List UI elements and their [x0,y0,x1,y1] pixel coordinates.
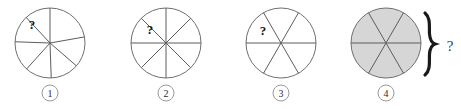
circle-number-label-4: 4 [378,85,394,101]
circle-diagram-4 [351,8,421,78]
label-text-2: 2 [164,88,169,99]
circle-diagram-2: ? [131,8,201,78]
question-mark-2: ? [147,22,154,37]
circle-number-label-2: 2 [158,85,174,101]
circle-number-label-1: 1 [42,85,58,101]
brace-group: ? [425,13,454,75]
question-mark-3: ? [260,23,267,38]
circle-number-label-3: 3 [273,85,289,101]
circle-diagram-1: ? [15,8,85,78]
label-text-4: 4 [384,88,389,99]
label-text-3: 3 [279,88,284,99]
figure-svg: ? ? ? [0,0,461,109]
curly-brace-icon [425,13,435,75]
question-mark-1: ? [29,17,36,32]
fraction-circles-figure: ? ? ? [0,0,461,109]
circle-diagram-3: ? [246,8,316,78]
label-text-1: 1 [48,88,53,99]
brace-question-mark: ? [447,38,454,54]
